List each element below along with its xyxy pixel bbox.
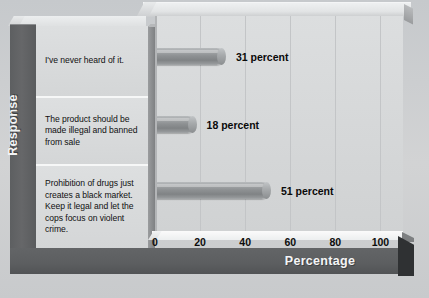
gridline: [335, 16, 336, 231]
bar-value-label: 18 percent: [207, 119, 260, 131]
x-tick-label: 100: [360, 236, 400, 248]
y-axis-band-highlight: [10, 24, 36, 25]
x-tick-label: 80: [315, 236, 355, 248]
category-label-text: The product should be made illegal and b…: [45, 114, 142, 148]
x-axis-title: Percentage: [250, 249, 390, 273]
bar: [155, 48, 225, 65]
x-tick-label: 20: [180, 236, 220, 248]
category-label-panel: I've never heard of it. The product shou…: [36, 26, 148, 248]
label-panel-right-edge: [148, 26, 155, 248]
category-label-text: I've never heard of it.: [45, 55, 124, 66]
category-label-cell: The product should be made illegal and b…: [36, 98, 148, 164]
bar-value-label: 31 percent: [236, 51, 289, 63]
category-label-text: Prohibition of drugs just creates a blac…: [45, 178, 142, 235]
plot-left-edge: [155, 16, 157, 231]
x-tick-label-group: 020406080100: [0, 236, 429, 252]
plot-area: [155, 16, 403, 231]
top-bevel-ledge: [143, 2, 411, 17]
gridline: [380, 16, 381, 231]
bar: [155, 116, 196, 133]
category-label-cell: I've never heard of it.: [36, 26, 148, 96]
y-axis-title: Response: [0, 71, 26, 179]
bar: [155, 182, 270, 199]
x-tick-label: 60: [270, 236, 310, 248]
x-tick-label: 40: [225, 236, 265, 248]
chart-figure: Response Percentage I've never heard of …: [0, 0, 429, 298]
x-tick-label: 0: [135, 236, 175, 248]
gridline: [290, 16, 291, 231]
bar-value-label: 51 percent: [281, 185, 334, 197]
